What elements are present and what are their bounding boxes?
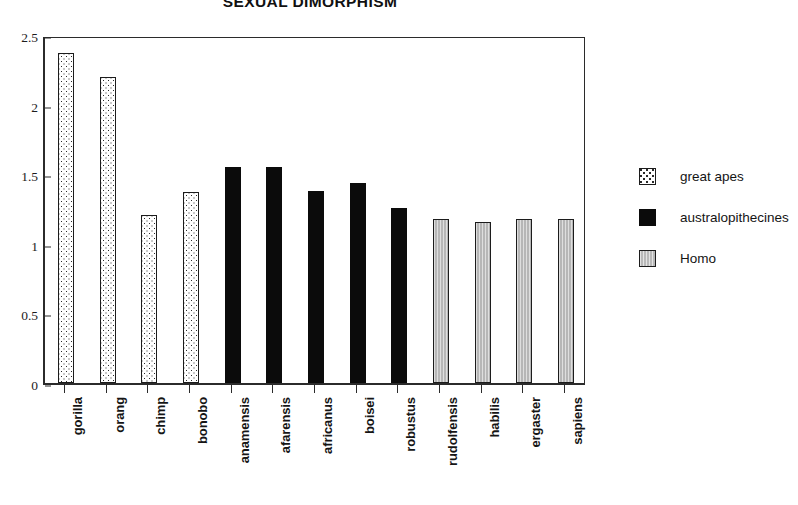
x-tick-label-ergaster: ergaster <box>528 397 543 448</box>
x-tick-mark <box>564 385 565 393</box>
x-tick-label-africanus: africanus <box>320 397 335 454</box>
y-tick-mark <box>45 107 51 108</box>
bar-bonobo <box>183 192 199 383</box>
bar-africanus <box>308 191 324 383</box>
x-tick-label-sapiens: sapiens <box>570 397 585 445</box>
bar-orang <box>100 77 116 383</box>
x-tick-mark <box>231 385 232 393</box>
legend-swatch-icon <box>639 250 656 267</box>
x-tick-label-anamensis: anamensis <box>237 397 252 463</box>
bar-robustus <box>391 208 407 383</box>
bar-chimp <box>141 215 157 383</box>
y-tick-label: 0.5 <box>21 308 38 324</box>
x-tick-label-chimp: chimp <box>153 397 168 435</box>
x-tick-label-rudolfensis: rudolfensis <box>445 397 460 466</box>
bar-sapiens <box>558 219 574 383</box>
y-tick-label: 1 <box>31 239 38 255</box>
y-tick-mark <box>45 246 51 247</box>
bar-anamensis <box>225 167 241 383</box>
bar-rudolfensis <box>433 219 449 383</box>
bar-boisei <box>350 183 366 383</box>
page-title: SEXUAL DIMORPHISM <box>0 0 620 11</box>
bar-gorilla <box>58 53 74 383</box>
legend-item-australo: australopithecines <box>639 197 794 238</box>
y-tick-mark <box>45 316 51 317</box>
plot-area: 00.511.522.5 <box>43 37 585 385</box>
x-tick-label-afarensis: afarensis <box>278 397 293 453</box>
x-tick-mark <box>356 385 357 393</box>
y-tick-label: 2.5 <box>21 30 38 46</box>
legend-label: great apes <box>680 169 744 184</box>
x-tick-mark <box>147 385 148 393</box>
x-tick-mark <box>64 385 65 393</box>
y-tick-mark <box>45 386 51 387</box>
y-tick-label: 1.5 <box>21 169 38 185</box>
x-tick-mark <box>272 385 273 393</box>
legend-item-homo: Homo <box>639 238 794 279</box>
legend-item-greatapes: great apes <box>639 156 794 197</box>
x-tick-mark <box>189 385 190 393</box>
x-tick-mark <box>314 385 315 393</box>
legend-swatch-icon <box>639 168 656 185</box>
chart-legend: great apesaustralopithecinesHomo <box>639 156 794 279</box>
y-tick-mark <box>45 38 51 39</box>
x-tick-label-habilis: habilis <box>487 397 502 437</box>
x-tick-label-boisei: boisei <box>362 397 377 434</box>
x-tick-mark <box>439 385 440 393</box>
x-tick-mark <box>522 385 523 393</box>
y-tick-mark <box>45 177 51 178</box>
x-tick-mark <box>106 385 107 393</box>
x-tick-label-robustus: robustus <box>403 397 418 452</box>
y-tick-label: 0 <box>31 378 38 394</box>
x-tick-label-orang: orang <box>112 397 127 433</box>
legend-label: Homo <box>680 251 716 266</box>
legend-label: australopithecines <box>680 210 789 225</box>
x-tick-mark <box>397 385 398 393</box>
x-tick-label-gorilla: gorilla <box>70 397 85 435</box>
x-tick-mark <box>481 385 482 393</box>
bar-ergaster <box>516 219 532 383</box>
bar-habilis <box>475 222 491 383</box>
bar-afarensis <box>266 167 282 383</box>
legend-swatch-icon <box>639 209 656 226</box>
y-tick-label: 2 <box>31 100 38 116</box>
chart-figure: SEXUAL DIMORPHISM 00.511.522.5 gorillaor… <box>0 0 798 505</box>
x-tick-label-bonobo: bonobo <box>195 397 210 444</box>
